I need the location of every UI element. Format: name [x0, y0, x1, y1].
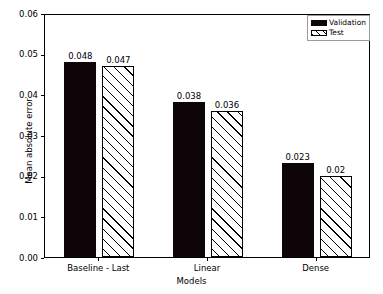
y-axis-tick-mark [41, 258, 44, 259]
bar-chart-figure: 0.000.010.020.030.040.050.06 Mean absolu… [0, 0, 383, 294]
bar-value-label: 0.047 [106, 56, 130, 65]
y-axis-tick-label: 0.06 [2, 10, 38, 19]
x-axis-tick-label: Linear [194, 263, 220, 273]
bar-validation-2[interactable] [282, 163, 314, 257]
x-axis-tick-mark [207, 258, 208, 261]
bar-value-label: 0.036 [215, 101, 239, 110]
bar-validation-1[interactable] [173, 102, 205, 257]
plot-area: 0.0480.0470.0380.0360.0230.02 Validation… [44, 14, 370, 258]
bar-test-1[interactable] [211, 111, 243, 257]
hatch-pattern [320, 176, 352, 257]
legend-item-label: Validation [329, 19, 366, 27]
hatch-pattern [211, 111, 243, 257]
x-axis-tick-label: Dense [302, 263, 329, 273]
solid-black-swatch [311, 20, 327, 26]
y-axis-tick-label: 0.05 [2, 50, 38, 59]
bar-validation-0[interactable] [64, 62, 96, 257]
y-axis-title: Mean absolute error [24, 66, 34, 216]
legend-item-label: Test [329, 29, 344, 37]
chart-legend[interactable]: ValidationTest [307, 15, 370, 41]
bar-value-label: 0.048 [68, 52, 92, 61]
bar-value-label: 0.023 [285, 153, 309, 162]
x-axis-tick-mark [316, 258, 317, 261]
x-axis-title: Models [0, 276, 383, 286]
legend-item-test[interactable]: Test [311, 28, 366, 37]
bar-test-0[interactable] [102, 66, 134, 257]
bar-value-label: 0.038 [177, 92, 201, 101]
bar-value-label: 0.02 [326, 166, 345, 175]
hatched-white-swatch [311, 30, 327, 36]
bar-test-2[interactable] [320, 176, 352, 257]
hatch-pattern [102, 66, 134, 257]
legend-item-validation[interactable]: Validation [311, 19, 366, 28]
x-axis-tick-label: Baseline - Last [67, 263, 129, 273]
y-axis-tick-label: 0.00 [2, 254, 38, 263]
x-axis-tick-mark [98, 258, 99, 261]
